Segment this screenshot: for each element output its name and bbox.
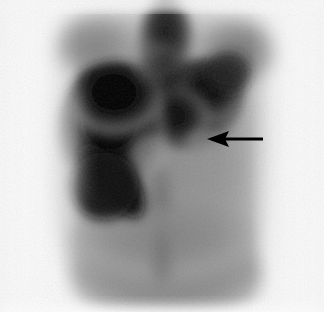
interorgan-photopenic-notch: [130, 134, 170, 170]
lower-spine-activity: [147, 208, 177, 296]
lesion-defect: [187, 129, 223, 155]
scan-canvas: [0, 0, 324, 326]
right-film-fade: [276, 0, 324, 326]
film-bottom-margin: [0, 312, 324, 326]
upper-interorgan-gap: [130, 38, 162, 82]
top-film-fade: [0, 0, 324, 10]
left-film-fade: [0, 0, 52, 326]
spleen-upper-pole: [206, 52, 250, 92]
scintigram-viewer: [0, 0, 324, 326]
scan-image: [0, 0, 324, 326]
